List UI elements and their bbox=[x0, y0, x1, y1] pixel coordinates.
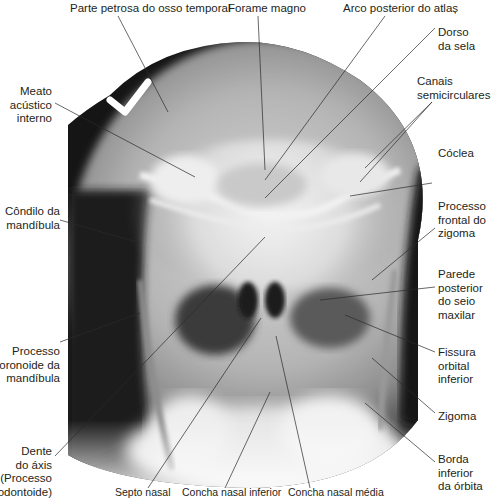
label-arco-posterior-atlas: Arco posterior do atlaș bbox=[343, 2, 458, 16]
label-text: frontal do bbox=[438, 214, 486, 228]
label-condilo-mandibula: Côndilo da mandíbula bbox=[5, 205, 60, 232]
label-parte-petrosa: Parte petrosa do osso temporal bbox=[70, 2, 230, 16]
label-text: posterior bbox=[438, 282, 483, 296]
label-text: odontoide) bbox=[0, 486, 52, 500]
label-meato-acustico-interno: Meato acústico interno bbox=[10, 85, 52, 126]
label-text: maxilar bbox=[438, 309, 483, 323]
label-text: Côndilo da bbox=[5, 205, 60, 219]
label-text: Parede bbox=[438, 268, 483, 282]
label-concha-nasal-media: Concha nasal média bbox=[288, 486, 384, 500]
label-text: Dente bbox=[0, 445, 52, 459]
label-fissura-orbital-inferior: Fissura orbital inferior bbox=[438, 346, 476, 387]
label-borda-inferior-orbita: Borda inferior da órbita bbox=[438, 453, 483, 494]
label-dente-axis: Dente do áxis (Processo odontoide) bbox=[0, 445, 52, 499]
label-text: acústico bbox=[10, 99, 52, 113]
label-text: zigoma bbox=[438, 227, 486, 241]
label-text: semicirculares bbox=[417, 89, 491, 103]
label-text: Processo bbox=[438, 200, 486, 214]
label-parede-posterior-seio: Parede posterior do seio maxilar bbox=[438, 268, 483, 322]
label-text: Fissura bbox=[438, 346, 476, 360]
label-text: da órbita bbox=[438, 480, 483, 494]
label-text: Zigoma bbox=[438, 410, 476, 424]
label-text: Arco posterior do atlaș bbox=[343, 2, 458, 16]
label-text: interno bbox=[10, 112, 52, 126]
label-text: inferior bbox=[438, 373, 476, 387]
label-processo-coronoide: Processo coronoide da mandíbula bbox=[0, 345, 60, 386]
label-text: Borda bbox=[438, 453, 483, 467]
label-text: Concha nasal inferior bbox=[182, 486, 281, 500]
label-text: da sela bbox=[438, 40, 475, 54]
label-text: mandíbula bbox=[5, 219, 60, 233]
label-text: inferior bbox=[438, 467, 483, 481]
label-text: Processo bbox=[0, 345, 60, 359]
label-text: (Processo bbox=[0, 472, 52, 486]
label-text: do seio bbox=[438, 295, 483, 309]
label-text: Forame magno bbox=[228, 2, 306, 16]
label-text: Septo nasal bbox=[115, 486, 170, 500]
label-septo-nasal: Septo nasal bbox=[115, 486, 170, 500]
label-concha-nasal-inferior: Concha nasal inferior bbox=[182, 486, 281, 500]
label-text: do áxis bbox=[0, 459, 52, 473]
label-zigoma: Zigoma bbox=[438, 410, 476, 424]
label-canais-semicirculares: Canais semicirculares bbox=[417, 75, 491, 102]
label-coclea: Cóclea bbox=[438, 147, 474, 161]
label-text: orbital bbox=[438, 360, 476, 374]
label-forame-magno: Forame magno bbox=[228, 2, 306, 16]
label-text: coronoide da bbox=[0, 359, 60, 373]
label-text: Meato bbox=[10, 85, 52, 99]
label-text: Dorso bbox=[438, 26, 475, 40]
label-text: Parte petrosa do osso temporal bbox=[70, 2, 230, 16]
label-dorso-sela: Dorso da sela bbox=[438, 26, 475, 53]
label-processo-frontal-zigoma: Processo frontal do zigoma bbox=[438, 200, 486, 241]
label-text: mandíbula bbox=[0, 372, 60, 386]
label-text: Concha nasal média bbox=[288, 486, 384, 500]
label-text: Canais bbox=[417, 75, 491, 89]
label-text: Cóclea bbox=[438, 147, 474, 161]
